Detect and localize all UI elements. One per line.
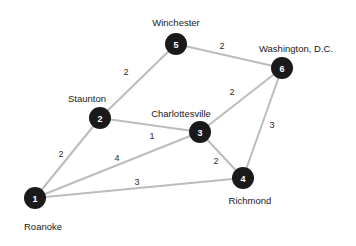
edge-weight-label: 2 (219, 41, 224, 51)
graph-edge (243, 68, 282, 178)
city-name-label: Charlottesville (151, 108, 211, 119)
city-name-label: Washington, D.C. (259, 43, 333, 54)
edge-weight-label: 2 (213, 156, 218, 166)
city-name-label: Roanoke (24, 221, 62, 232)
edge-weight-label: 3 (269, 120, 274, 130)
node-number-label: 2 (97, 114, 102, 124)
edge-weight-label: 2 (123, 67, 128, 77)
graph-node-4[interactable]: 4 (232, 167, 254, 189)
graph-edge (35, 132, 200, 198)
edge-weight-label: 3 (134, 177, 139, 187)
city-name-label: Winchester (152, 17, 200, 28)
graph-node-6[interactable]: 6 (271, 57, 293, 79)
edge-weight-label: 2 (229, 87, 234, 97)
city-name-label: Richmond (229, 195, 272, 206)
node-number-label: 4 (240, 174, 245, 184)
nodes-layer: 123456 (24, 33, 293, 209)
graph-node-5[interactable]: 5 (165, 33, 187, 55)
graph-canvas: 243122232 123456 RoanokeStauntonCharlott… (0, 0, 356, 246)
graph-node-2[interactable]: 2 (89, 107, 111, 129)
edge-weight-label: 2 (58, 149, 63, 159)
city-name-label: Staunton (68, 93, 106, 104)
node-number-label: 3 (197, 128, 202, 138)
graph-edge (100, 118, 200, 132)
edge-weight-label: 1 (149, 131, 154, 141)
node-number-label: 5 (173, 40, 178, 50)
node-number-label: 6 (279, 64, 284, 74)
edge-weight-label: 4 (114, 153, 119, 163)
graph-node-1[interactable]: 1 (24, 187, 46, 209)
graph-node-3[interactable]: 3 (189, 121, 211, 143)
node-number-label: 1 (32, 194, 37, 204)
graph-diagram: 243122232 123456 RoanokeStauntonCharlott… (0, 0, 356, 246)
